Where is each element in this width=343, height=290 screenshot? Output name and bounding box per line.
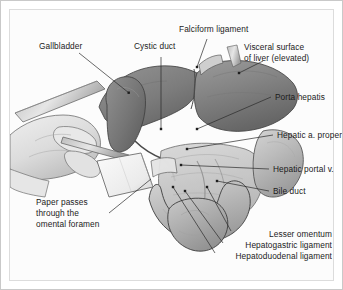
label-paper-line1: Paper passes — [36, 197, 88, 208]
label-paper-line2: through the — [36, 208, 79, 219]
label-hepatic-a-proper: Hepatic a. proper — [277, 130, 342, 141]
label-falciform-ligament: Falciform ligament — [179, 24, 248, 35]
label-hepatic-portal-v: Hepatic portal v. — [273, 164, 334, 175]
label-visceral-surface-line1: Visceral surface — [244, 42, 304, 53]
label-bile-duct: Bile duct — [273, 186, 306, 197]
figure-container: Gallbladder Cystic duct Falciform ligame… — [0, 0, 343, 290]
label-hepatoduodenal-ligament: Hepatoduodenal ligament — [236, 251, 332, 262]
label-gallbladder: Gallbladder — [39, 41, 82, 52]
label-paper-line3: omental foramen — [36, 219, 100, 230]
label-porta-hepatis: Porta hepatis — [275, 92, 325, 103]
label-visceral-surface-line2: of liver (elevated) — [244, 53, 309, 64]
label-cystic-duct: Cystic duct — [134, 41, 176, 52]
label-hepatogastric-ligament: Hepatogastric ligament — [245, 240, 332, 251]
label-lesser-omentum: Lesser omentum — [269, 229, 332, 240]
